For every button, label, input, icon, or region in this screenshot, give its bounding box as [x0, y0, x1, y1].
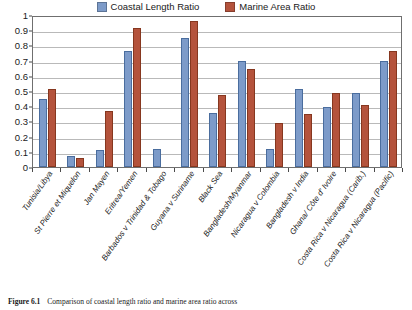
- bar-coastal-length-ratio: [295, 89, 303, 167]
- legend-entry-marine-area-ratio: Marine Area Ratio: [225, 2, 315, 12]
- legend-label-coastal: Coastal Length Ratio: [111, 2, 200, 12]
- legend-swatch-coastal: [97, 2, 107, 12]
- y-axis: 00.10.20.30.40.50.60.70.80.91: [0, 16, 32, 168]
- legend-swatch-marine: [225, 2, 235, 12]
- bar-group: [90, 17, 118, 167]
- bar-group: [33, 17, 61, 167]
- plot-area: [32, 16, 402, 168]
- bar-coastal-length-ratio: [209, 113, 217, 167]
- y-axis-tick-label: 0.6: [15, 72, 28, 82]
- bar-marine-area-ratio: [332, 93, 340, 167]
- legend-label-marine: Marine Area Ratio: [239, 2, 315, 12]
- bar-marine-area-ratio: [133, 28, 141, 167]
- bar-group: [118, 17, 146, 167]
- y-axis-tick-label: 0.4: [15, 102, 28, 112]
- bar-marine-area-ratio: [389, 51, 397, 167]
- y-axis-tick-label: 0.7: [15, 57, 28, 67]
- bar-coastal-length-ratio: [352, 93, 360, 167]
- bar-marine-area-ratio: [275, 123, 283, 167]
- bar-group: [147, 17, 175, 167]
- caption-number: Figure 6.1: [8, 297, 40, 306]
- bar-marine-area-ratio: [48, 89, 56, 167]
- figure-caption: Figure 6.1Comparison of coastal length r…: [8, 297, 408, 306]
- x-axis-tick-label: Jan Mayen: [82, 170, 111, 207]
- bar-series-container: [33, 17, 401, 167]
- bar-marine-area-ratio: [76, 158, 84, 167]
- bar-coastal-length-ratio: [266, 149, 274, 167]
- bar-group: [261, 17, 289, 167]
- figure-container: Coastal Length Ratio Marine Area Ratio 0…: [0, 0, 412, 310]
- bar-group: [346, 17, 374, 167]
- bar-marine-area-ratio: [304, 114, 312, 167]
- caption-text: Comparison of coastal length ratio and m…: [47, 297, 237, 306]
- chart-legend: Coastal Length Ratio Marine Area Ratio: [0, 2, 412, 12]
- bar-marine-area-ratio: [247, 69, 255, 167]
- bar-coastal-length-ratio: [380, 61, 388, 167]
- bar-coastal-length-ratio: [238, 61, 246, 167]
- bar-marine-area-ratio: [105, 111, 113, 167]
- bar-group: [204, 17, 232, 167]
- bar-coastal-length-ratio: [67, 156, 75, 167]
- bar-group: [232, 17, 260, 167]
- y-axis-tick-label: 0.2: [15, 133, 28, 143]
- bar-coastal-length-ratio: [181, 38, 189, 167]
- y-axis-tick-label: 0.5: [15, 87, 28, 97]
- bar-group: [375, 17, 403, 167]
- x-axis-labels: Tunisia/LibyaSt Pierre et MiquelonJan Ma…: [0, 170, 412, 288]
- legend-entry-coastal-length-ratio: Coastal Length Ratio: [97, 2, 200, 12]
- bar-coastal-length-ratio: [124, 51, 132, 167]
- bar-coastal-length-ratio: [323, 107, 331, 167]
- bar-group: [318, 17, 346, 167]
- bar-group: [289, 17, 317, 167]
- y-axis-tick-label: 0.1: [15, 148, 28, 158]
- y-axis-tick-label: 0.3: [15, 118, 28, 128]
- x-axis-tick-label: Black Sea: [198, 170, 225, 204]
- bar-coastal-length-ratio: [39, 99, 47, 167]
- bar-marine-area-ratio: [361, 105, 369, 167]
- bar-marine-area-ratio: [190, 21, 198, 167]
- bar-group: [61, 17, 89, 167]
- bar-group: [175, 17, 203, 167]
- y-axis-tick-label: 1: [23, 11, 28, 21]
- bar-marine-area-ratio: [218, 95, 226, 167]
- bar-coastal-length-ratio: [153, 149, 161, 167]
- bar-coastal-length-ratio: [96, 150, 104, 167]
- y-axis-tick-label: 0.8: [15, 42, 28, 52]
- y-axis-tick-label: 0.9: [15, 26, 28, 36]
